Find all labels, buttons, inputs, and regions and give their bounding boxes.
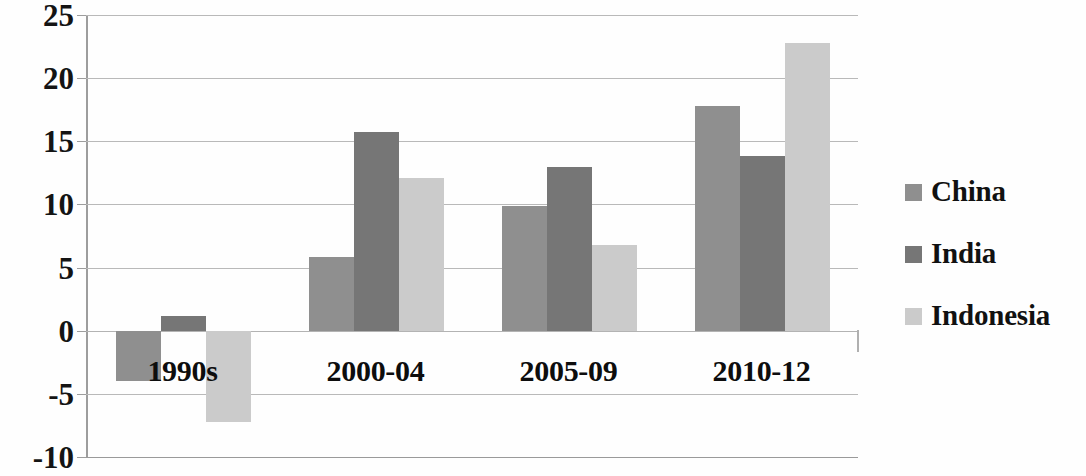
y-tick-label-neg10: -10	[0, 442, 74, 473]
legend-label: Indonesia	[931, 301, 1050, 330]
y-tick-label-20: 20	[0, 63, 74, 94]
legend-swatch-indonesia-icon	[905, 308, 922, 325]
bar-india-2005-09	[547, 167, 592, 331]
y-axis-tick-15	[77, 141, 86, 142]
legend-item-china[interactable]: China	[905, 160, 1085, 222]
bar-china-2010-12	[695, 106, 740, 331]
y-axis-tick-0	[77, 331, 86, 332]
legend-label: China	[931, 177, 1006, 206]
right-axis-tick	[857, 330, 859, 352]
gridline-15	[86, 141, 858, 142]
y-axis-tick-25	[77, 15, 86, 16]
y-tick-label-neg5: -5	[0, 378, 74, 409]
y-tick-label-5: 5	[0, 252, 74, 283]
y-axis-tick-20	[77, 78, 86, 79]
gridline-25	[86, 15, 858, 16]
x-label-2005-09: 2005-09	[459, 356, 679, 386]
gridline--10	[86, 457, 858, 458]
gridline-20	[86, 78, 858, 79]
y-tick-label-0: 0	[0, 315, 74, 346]
legend-item-india[interactable]: India	[905, 222, 1085, 284]
bar-india-2000-04	[354, 132, 399, 330]
legend-swatch-india-icon	[905, 246, 922, 263]
y-axis-tick-5	[77, 268, 86, 269]
chart-legend: ChinaIndiaIndonesia	[905, 160, 1085, 346]
y-tick-label-15: 15	[0, 126, 74, 157]
bar-china-2000-04	[309, 257, 354, 330]
legend-swatch-china-icon	[905, 184, 922, 201]
y-axis-tick--5	[77, 394, 86, 395]
bar-india-2010-12	[740, 156, 785, 330]
bar-chart: 2520151050-5-10 1990s2000-042005-092010-…	[0, 0, 1086, 476]
x-label-2000-04: 2000-04	[266, 356, 486, 386]
bar-indonesia-2010-12	[785, 43, 830, 331]
plot-area	[86, 15, 858, 457]
bar-indonesia-2005-09	[592, 245, 637, 331]
bar-indonesia-2000-04	[399, 178, 444, 331]
bar-china-2005-09	[502, 206, 547, 331]
y-axis-tick--10	[77, 457, 86, 458]
y-tick-label-25: 25	[0, 0, 74, 31]
legend-item-indonesia[interactable]: Indonesia	[905, 284, 1085, 346]
y-axis-tick-10	[77, 204, 86, 205]
gridline--5	[86, 394, 858, 395]
bar-india-1990s	[161, 316, 206, 331]
legend-label: India	[931, 239, 996, 268]
x-label-2010-12: 2010-12	[652, 356, 872, 386]
gridline-0	[86, 331, 858, 332]
y-tick-label-10: 10	[0, 189, 74, 220]
x-label-1990s: 1990s	[73, 356, 293, 386]
